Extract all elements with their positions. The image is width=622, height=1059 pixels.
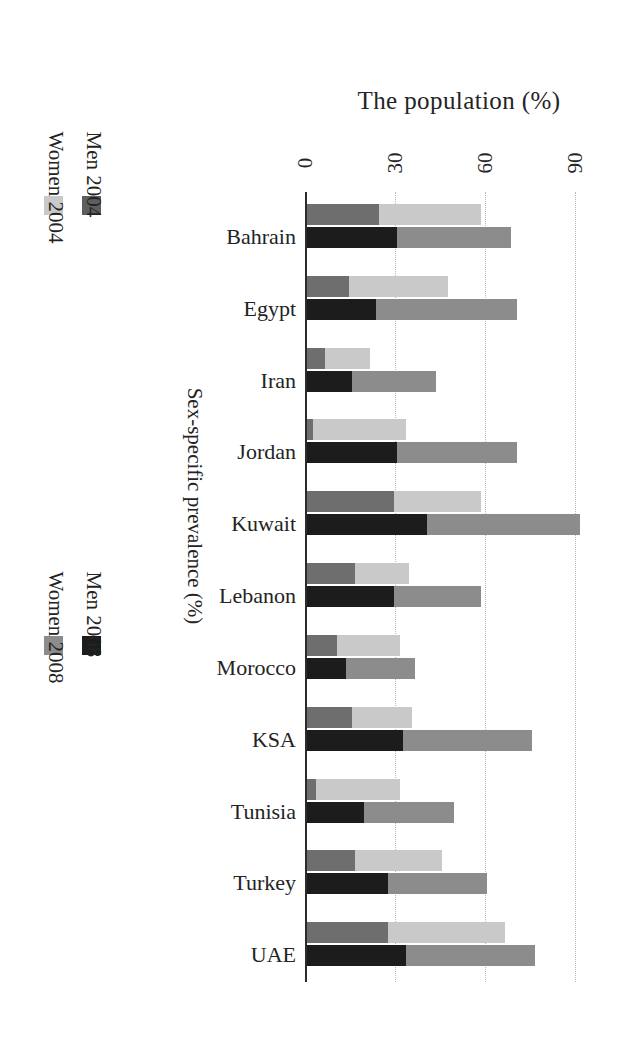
country-bar-group <box>307 635 605 679</box>
bar-2004 <box>307 491 605 512</box>
country-bar-group <box>307 563 605 607</box>
country-bar-group <box>307 850 605 894</box>
category-label: Iran <box>186 364 304 398</box>
bar-segment-men-2008 <box>307 227 397 248</box>
bar-segment-men-2008 <box>307 514 427 535</box>
bar-segment-women-2008 <box>403 730 532 751</box>
legend-label: Men 2008 <box>83 572 105 787</box>
bar-segment-men-2008 <box>307 586 394 607</box>
bar-2004 <box>307 635 605 656</box>
bar-segment-women-2004 <box>316 779 400 800</box>
bar-segment-women-2008 <box>388 873 487 894</box>
legend-entry[interactable]: Men 2004 <box>82 196 104 215</box>
bar-segment-men-2004 <box>307 635 337 656</box>
bar-segment-women-2008 <box>397 227 511 248</box>
category-label: Tunisia <box>186 795 304 829</box>
category-label: Lebanon <box>186 579 304 613</box>
legend-entry[interactable]: Men 2008 <box>82 636 104 655</box>
category-label: Kuwait <box>186 507 304 541</box>
bar-segment-women-2004 <box>313 419 406 440</box>
bar-2004 <box>307 922 605 943</box>
bar-2004 <box>307 204 605 225</box>
bar-2004 <box>307 779 605 800</box>
bar-2008 <box>307 730 605 751</box>
bar-segment-women-2004 <box>349 276 448 297</box>
bar-segment-men-2008 <box>307 658 346 679</box>
country-bar-group <box>307 204 605 248</box>
bar-segment-women-2004 <box>337 635 400 656</box>
category-label: Egypt <box>186 292 304 326</box>
bar-2008 <box>307 299 605 320</box>
bar-2004 <box>307 419 605 440</box>
legend-label: Women 2008 <box>45 572 67 787</box>
bar-segment-men-2008 <box>307 730 403 751</box>
bar-segment-women-2008 <box>427 514 580 535</box>
bar-2008 <box>307 945 605 966</box>
category-label: Turkey <box>186 866 304 900</box>
bar-2008 <box>307 802 605 823</box>
bar-segment-men-2004 <box>307 491 394 512</box>
bar-segment-women-2004 <box>355 563 409 584</box>
category-label: Morocco <box>186 651 304 685</box>
bar-segment-women-2004 <box>394 491 481 512</box>
bar-segment-men-2004 <box>307 348 325 369</box>
country-bar-group <box>307 419 605 463</box>
axis-tick-label: 90 <box>552 140 598 186</box>
bar-2008 <box>307 586 605 607</box>
country-bar-group <box>307 779 605 823</box>
bar-segment-women-2004 <box>352 707 412 728</box>
legend-label: Men 2004 <box>83 132 105 347</box>
bar-segment-men-2004 <box>307 276 349 297</box>
bar-segment-men-2008 <box>307 945 406 966</box>
bar-2004 <box>307 850 605 871</box>
bar-segment-women-2008 <box>352 371 436 392</box>
bar-segment-women-2004 <box>325 348 370 369</box>
bar-2004 <box>307 707 605 728</box>
bar-segment-women-2008 <box>394 586 481 607</box>
bar-2008 <box>307 442 605 463</box>
legend-entry[interactable]: Women 2008 <box>44 636 66 655</box>
bar-segment-men-2008 <box>307 442 397 463</box>
category-label: KSA <box>186 723 304 757</box>
bar-2008 <box>307 371 605 392</box>
bar-segment-men-2008 <box>307 299 376 320</box>
bar-2008 <box>307 514 605 535</box>
bar-segment-men-2004 <box>307 204 379 225</box>
bar-2008 <box>307 873 605 894</box>
bar-segment-women-2004 <box>379 204 481 225</box>
category-label: Bahrain <box>186 220 304 254</box>
category-label: Jordan <box>186 435 304 469</box>
bar-2008 <box>307 658 605 679</box>
plot-area <box>305 192 605 982</box>
bar-segment-men-2008 <box>307 873 388 894</box>
bar-segment-men-2004 <box>307 563 355 584</box>
bar-2004 <box>307 276 605 297</box>
chart-title: The population (%) <box>309 80 609 122</box>
axis-tick-label: 30 <box>372 140 418 186</box>
bar-segment-men-2008 <box>307 371 352 392</box>
bar-segment-men-2004 <box>307 922 388 943</box>
axis-tick-label: 0 <box>282 140 328 186</box>
bar-segment-men-2004 <box>307 850 355 871</box>
country-bar-group <box>307 922 605 966</box>
country-bar-group <box>307 348 605 392</box>
bar-segment-women-2004 <box>355 850 442 871</box>
bar-2004 <box>307 348 605 369</box>
bar-segment-women-2008 <box>364 802 454 823</box>
bar-segment-women-2008 <box>406 945 535 966</box>
legend-entry[interactable]: Women 2004 <box>44 196 66 215</box>
bar-2008 <box>307 227 605 248</box>
bar-segment-women-2008 <box>397 442 517 463</box>
category-label: UAE <box>186 938 304 972</box>
bar-segment-men-2004 <box>307 779 316 800</box>
bar-segment-men-2004 <box>307 707 352 728</box>
bar-segment-women-2008 <box>376 299 517 320</box>
bar-segment-men-2008 <box>307 802 364 823</box>
bar-segment-women-2008 <box>346 658 415 679</box>
legend-label: Women 2004 <box>45 132 67 347</box>
country-bar-group <box>307 707 605 751</box>
bar-2004 <box>307 563 605 584</box>
country-bar-group <box>307 276 605 320</box>
bar-segment-women-2004 <box>388 922 505 943</box>
country-bar-group <box>307 491 605 535</box>
